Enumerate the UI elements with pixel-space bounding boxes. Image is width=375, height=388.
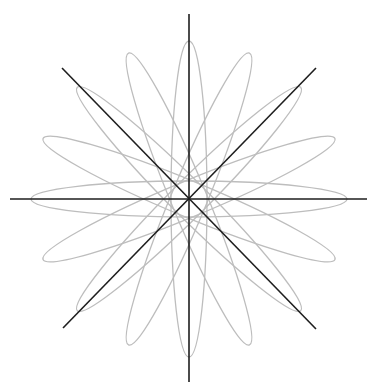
axis-lines-group	[10, 14, 367, 382]
rose-diagram	[0, 0, 375, 388]
